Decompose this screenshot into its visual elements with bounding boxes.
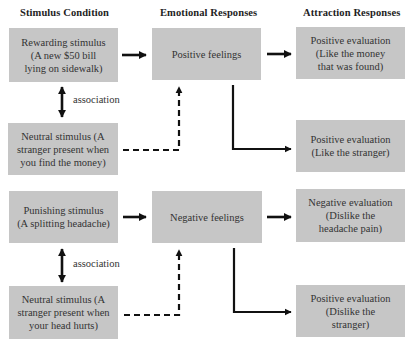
l-arrow-icon — [234, 248, 291, 312]
l-arrow-icon — [233, 85, 291, 149]
dashed-arrow-icon — [123, 87, 179, 150]
arrows-layer — [0, 0, 419, 351]
dashed-arrow-icon — [124, 250, 179, 315]
